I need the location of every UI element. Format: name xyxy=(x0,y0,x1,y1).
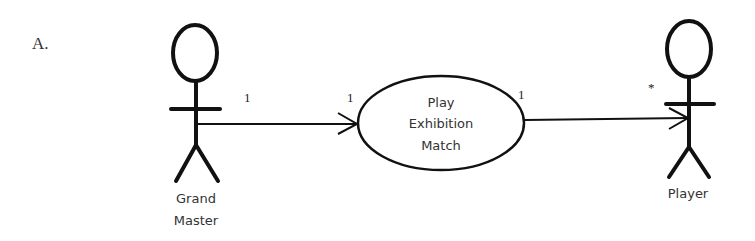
actor-name-line: Player xyxy=(668,186,709,201)
actor-player xyxy=(666,21,714,177)
association-usecase-player xyxy=(525,108,688,129)
use-case-diagram: A. Grand Master 1 1 Play Exhibition Matc… xyxy=(0,0,755,241)
multiplicity-label: 1 xyxy=(347,90,354,105)
actor-right-leg xyxy=(196,145,218,181)
association-line xyxy=(525,118,687,120)
actor-grand-master xyxy=(171,25,220,181)
actor-name-line: Grand xyxy=(176,191,216,206)
diagram-svg: A. Grand Master 1 1 Play Exhibition Matc… xyxy=(0,0,755,241)
actor-left-leg xyxy=(176,145,196,181)
actor-head xyxy=(173,25,217,81)
actor-head xyxy=(667,21,711,77)
actor-left-leg xyxy=(669,147,689,177)
multiplicity-label: 1 xyxy=(244,90,251,105)
use-case-name-line: Exhibition xyxy=(409,116,474,131)
use-case-name-line: Play xyxy=(427,95,454,110)
association-grandmaster-usecase xyxy=(198,113,357,134)
figure-label: A. xyxy=(32,34,49,53)
multiplicity-label: * xyxy=(648,80,655,95)
multiplicity-label: 1 xyxy=(518,87,525,102)
actor-right-leg xyxy=(689,147,709,177)
use-case-name-line: Match xyxy=(421,138,461,153)
actor-name-line: Master xyxy=(174,213,219,228)
